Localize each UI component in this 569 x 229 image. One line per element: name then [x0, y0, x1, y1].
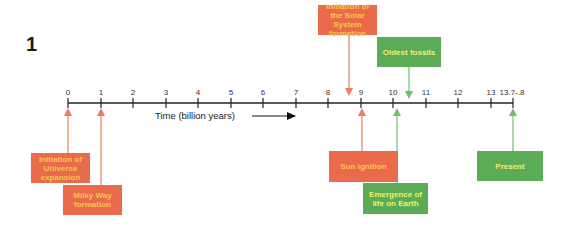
event-solar-system-formation: Initiation of the Solar System formation	[318, 5, 377, 35]
tick-label: 10	[389, 88, 398, 97]
event-label: Emergence of life on Earth	[365, 190, 426, 208]
event-label: Initiation of Universe expansion	[33, 155, 88, 182]
tick-label: 6	[261, 88, 265, 97]
tick-label: 1	[99, 88, 103, 97]
event-universe-expansion: Initiation of Universe expansion	[31, 153, 90, 183]
event-label: Oldest fossils	[383, 48, 435, 57]
event-sun-ignition: Sun ignition	[329, 151, 398, 182]
event-milky-way-formation: Milky Way formation	[63, 185, 122, 215]
axis-title: Time (billion years)	[155, 110, 235, 121]
tick-label: 2	[131, 88, 135, 97]
event-label: Present	[495, 162, 524, 171]
event-present: Present	[477, 151, 543, 181]
event-label: Initiation of the Solar System formation	[320, 2, 375, 38]
tick-label: 12	[454, 88, 463, 97]
event-oldest-fossils: Oldest fossils	[377, 37, 441, 67]
tick-label: 0	[66, 88, 70, 97]
tick-label: 13	[487, 88, 496, 97]
tick-label: 8	[326, 88, 330, 97]
event-label: Milky Way formation	[65, 191, 120, 209]
tick-label: 5	[229, 88, 233, 97]
tick-label: 3	[164, 88, 168, 97]
event-label: Sun ignition	[340, 162, 386, 171]
tick-label: 7	[294, 88, 298, 97]
tick-label: 4	[196, 88, 200, 97]
tick-label: 11	[422, 88, 430, 97]
tick-label: 13.7-.8	[500, 88, 525, 97]
tick-label: 9	[359, 88, 363, 97]
event-emergence-of-life: Emergence of life on Earth	[363, 183, 428, 214]
